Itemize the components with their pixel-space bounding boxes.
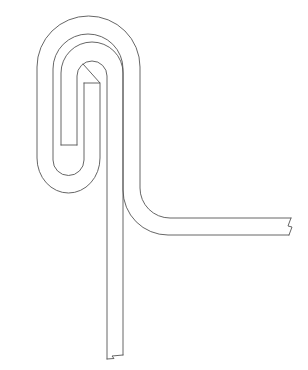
seam-cross-section-diagram [0,0,308,370]
outer-sheet-inner-edge [53,34,289,235]
inner-sheet-hook-outer-edge [61,42,123,355]
outer-sheet-outer-edge [37,16,291,218]
right-break-mark [288,218,292,235]
outer-sheet-cut-end [83,64,100,83]
inner-sheet-hook-inner-edge [77,61,107,359]
bottom-break-mark [107,355,123,359]
